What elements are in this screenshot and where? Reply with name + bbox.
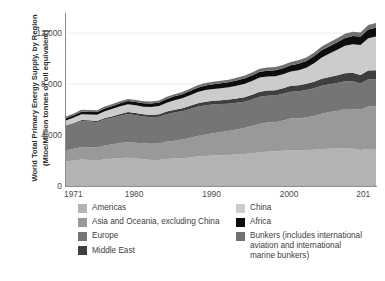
legend-swatch: [78, 246, 87, 255]
legend-swatch: [236, 232, 245, 241]
legend-item[interactable]: Middle East: [78, 246, 238, 257]
x-tick-label: 1990: [202, 189, 221, 199]
legend-item[interactable]: China: [236, 203, 385, 214]
legend-item[interactable]: Europe: [78, 231, 238, 242]
plot-area: [66, 14, 376, 186]
y-tick-label: 8,000: [4, 79, 62, 89]
y-tick-label: 4,000: [4, 130, 62, 140]
legend-swatch: [236, 204, 245, 213]
legend-swatch: [78, 232, 87, 241]
legend-item[interactable]: Asia and Oceania, excluding China: [78, 217, 238, 228]
legend-item[interactable]: Africa: [236, 217, 385, 228]
chart-legend: AmericasAsia and Oceania, excluding Chin…: [0, 203, 385, 281]
legend-label: Bunkers (includes international aviation…: [250, 231, 362, 260]
legend-item[interactable]: Bunkers (includes international aviation…: [236, 231, 385, 260]
y-tick-label: 12,000: [4, 28, 62, 38]
x-axis-line: [65, 186, 377, 187]
legend-label: Europe: [92, 231, 118, 241]
legend-swatch: [78, 204, 87, 213]
stacked-area-plot: [66, 14, 376, 186]
y-axis-ticks: 04,0008,00012,000: [0, 0, 62, 200]
x-tick-label: 2000: [280, 189, 299, 199]
chart-figure: World Total Primary Energy Supply, by Re…: [0, 0, 385, 281]
legend-column-left: AmericasAsia and Oceania, excluding Chin…: [78, 203, 238, 260]
legend-swatch: [78, 218, 87, 227]
legend-label: Americas: [92, 203, 126, 213]
legend-label: Africa: [250, 217, 271, 227]
x-tick-label: 1980: [125, 189, 144, 199]
legend-item[interactable]: Americas: [78, 203, 238, 214]
x-axis-ticks: 1971198019902000201: [0, 189, 385, 203]
x-tick-label: 201: [356, 189, 370, 199]
legend-label: Middle East: [92, 246, 135, 256]
legend-label: Asia and Oceania, excluding China: [92, 217, 219, 227]
legend-label: China: [250, 203, 271, 213]
legend-column-right: ChinaAfricaBunkers (includes internation…: [236, 203, 385, 263]
x-tick-label: 1971: [64, 189, 83, 199]
legend-swatch: [236, 218, 245, 227]
